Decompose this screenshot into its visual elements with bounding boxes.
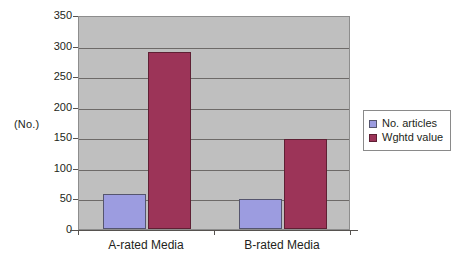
bar bbox=[103, 194, 146, 229]
x-axis-tick-mark bbox=[78, 230, 79, 235]
x-axis-tick-mark bbox=[350, 230, 351, 235]
y-axis-tick-mark bbox=[73, 77, 78, 78]
bar bbox=[148, 52, 191, 229]
y-axis-tick: 0 bbox=[36, 224, 72, 235]
legend-item[interactable]: Wghtd value bbox=[369, 131, 443, 144]
legend-label: Wghtd value bbox=[382, 131, 443, 144]
legend-swatch-icon bbox=[369, 134, 377, 142]
bar bbox=[284, 139, 327, 229]
legend-swatch-icon bbox=[369, 120, 377, 128]
y-axis-tick: 200 bbox=[36, 102, 72, 113]
y-axis-tick: 350 bbox=[36, 10, 72, 21]
y-axis-tick-mark bbox=[73, 169, 78, 170]
bar bbox=[239, 199, 282, 229]
x-axis-tick-mark bbox=[214, 230, 215, 235]
y-axis-tick-mark bbox=[73, 16, 78, 17]
plot-area bbox=[78, 16, 350, 230]
y-axis-tick-mark bbox=[73, 230, 78, 231]
y-axis-tick-labels: 050100150200250300350 bbox=[34, 0, 72, 261]
y-axis-tick-mark bbox=[73, 47, 78, 48]
y-axis-tick-mark bbox=[73, 199, 78, 200]
legend-item[interactable]: No. articles bbox=[369, 117, 443, 130]
y-axis-tick: 100 bbox=[36, 163, 72, 174]
y-axis-tick-mark bbox=[73, 108, 78, 109]
y-axis-tick: 300 bbox=[36, 41, 72, 52]
x-axis-category-label: A-rated Media bbox=[78, 238, 214, 252]
y-axis-tick: 250 bbox=[36, 71, 72, 82]
y-axis-tick: 50 bbox=[36, 193, 72, 204]
y-axis-tick: 150 bbox=[36, 132, 72, 143]
legend-label: No. articles bbox=[382, 117, 437, 130]
chart-legend: No. articlesWghtd value bbox=[363, 110, 451, 151]
gridline bbox=[79, 48, 349, 49]
gridline bbox=[79, 109, 349, 110]
gridline bbox=[79, 78, 349, 79]
y-axis-tick-mark bbox=[73, 138, 78, 139]
bar-chart: (No.) 050100150200250300350 A-rated Medi… bbox=[0, 0, 466, 261]
x-axis-category-label: B-rated Media bbox=[214, 238, 350, 252]
